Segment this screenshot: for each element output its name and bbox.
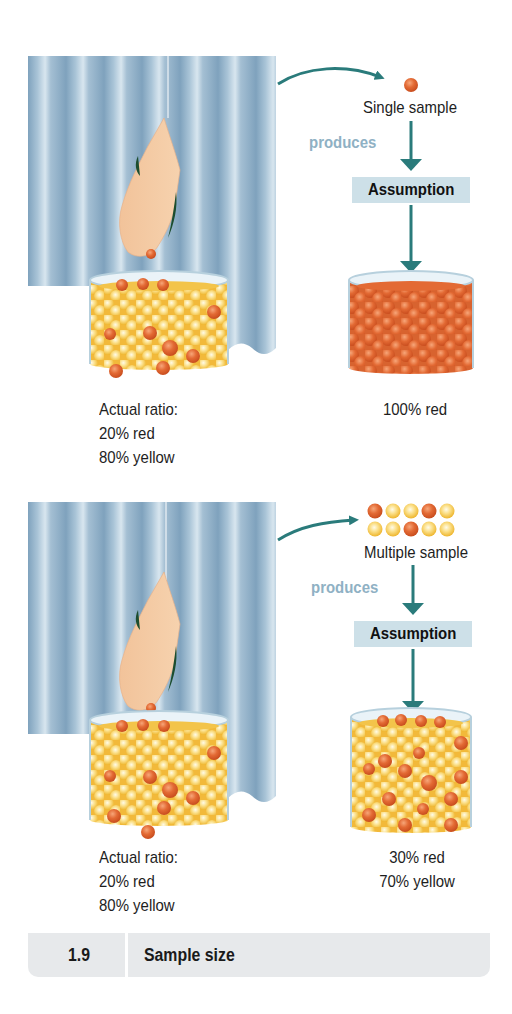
- jar-assumed-mixed: [349, 707, 473, 837]
- assumption-label: Assumption: [370, 621, 456, 647]
- sample-label: Multiple sample: [346, 541, 487, 565]
- actual-ratio-heading: Actual ratio:: [99, 846, 178, 870]
- produces-label: produces: [311, 578, 378, 598]
- figure-caption-bar: 1.9 Sample size: [28, 933, 490, 977]
- figure-title: Sample size: [128, 933, 247, 977]
- jar-actual-mixed: [88, 710, 230, 830]
- actual-ratio-yellow: 80% yellow: [99, 894, 175, 918]
- assumed-ratio-line1: 30% red: [351, 846, 483, 870]
- multiple-sample-balls: [366, 502, 462, 542]
- assumption-box: Assumption: [354, 621, 472, 647]
- assumed-ratio-line2: 70% yellow: [351, 870, 483, 894]
- hand-icon: [118, 572, 188, 722]
- down-arrow-icon: [402, 565, 424, 617]
- panel-multiple-sample: Actual ratio: 20% red 80% yellow Multipl…: [0, 0, 512, 920]
- figure-number: 1.9: [28, 933, 128, 977]
- actual-ratio-red: 20% red: [99, 870, 155, 894]
- down-arrow-icon: [402, 649, 424, 715]
